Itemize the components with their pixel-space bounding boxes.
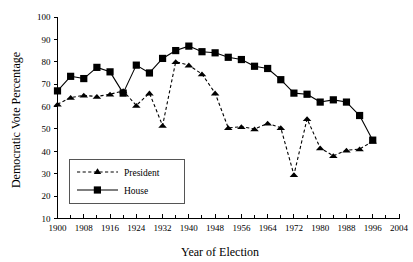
y-tick-label: 50 xyxy=(42,124,52,134)
data-point-marker-triangle xyxy=(290,172,299,177)
data-point-marker-square xyxy=(251,63,258,70)
data-point-marker-triangle xyxy=(132,103,141,108)
y-tick-label: 90 xyxy=(42,35,52,45)
y-tick-label: 60 xyxy=(42,102,52,112)
x-tick-label: 1948 xyxy=(206,223,225,233)
x-tick-label: 1932 xyxy=(154,223,172,233)
data-point-marker-triangle xyxy=(211,91,220,96)
y-tick-label: 80 xyxy=(42,57,52,67)
x-tick-label: 1980 xyxy=(311,223,330,233)
data-point-marker-triangle xyxy=(158,123,167,128)
data-point-marker-square xyxy=(330,96,337,103)
y-axis-title: Democratic Vote Percentage xyxy=(9,52,23,188)
data-point-marker-triangle xyxy=(303,116,312,121)
data-point-marker-square xyxy=(317,98,324,105)
y-tick-label: 40 xyxy=(42,147,52,157)
data-point-marker-triangle xyxy=(106,92,115,97)
data-point-marker-square xyxy=(93,64,100,71)
democratic-vote-percentage-line-chart: Democratic Vote Percentage Year of Elect… xyxy=(0,0,413,262)
data-point-marker-square xyxy=(290,90,297,97)
data-point-marker-square xyxy=(198,48,205,55)
data-point-marker-triangle xyxy=(145,91,154,96)
x-tick-label: 1988 xyxy=(337,223,356,233)
chart-legend: President House xyxy=(70,160,185,204)
x-axis-title-label: Year of Election xyxy=(181,245,259,259)
data-point-marker-square xyxy=(343,98,350,105)
data-point-marker-square xyxy=(212,49,219,56)
data-point-marker-square xyxy=(303,91,310,98)
data-point-marker-triangle xyxy=(185,63,194,68)
data-point-marker-square xyxy=(277,76,284,83)
data-point-marker-triangle xyxy=(276,125,285,130)
data-point-marker-square xyxy=(146,69,153,76)
chart-figure: Democratic Vote Percentage Year of Elect… xyxy=(0,0,413,262)
x-tick-label: 1900 xyxy=(49,223,68,233)
x-axis-title: Year of Election xyxy=(181,245,259,259)
data-point-marker-square xyxy=(67,73,74,80)
x-tick-label: 1996 xyxy=(364,223,383,233)
data-point-marker-square xyxy=(264,65,271,72)
data-point-marker-square xyxy=(120,90,127,97)
data-point-marker-triangle xyxy=(263,121,272,126)
data-series-layer xyxy=(53,43,377,178)
data-point-marker-square xyxy=(54,87,61,94)
x-tick-label: 2004 xyxy=(390,223,409,233)
data-point-marker-triangle xyxy=(316,145,325,150)
series-line-president xyxy=(58,62,373,175)
legend-marker-square-icon xyxy=(94,186,101,193)
x-tick-label: 1916 xyxy=(101,223,120,233)
data-point-marker-triangle xyxy=(237,124,246,129)
data-point-marker-square xyxy=(106,68,113,75)
data-point-marker-square xyxy=(172,47,179,54)
data-point-marker-square xyxy=(80,75,87,82)
data-point-marker-square xyxy=(238,56,245,63)
x-tick-label: 1924 xyxy=(127,223,146,233)
legend-label-house: House xyxy=(124,186,148,196)
y-tick-label: 20 xyxy=(42,191,52,201)
x-tick-label: 1972 xyxy=(285,223,303,233)
y-tick-label: 30 xyxy=(42,169,52,179)
data-point-marker-square xyxy=(356,112,363,119)
data-point-marker-square xyxy=(133,62,140,69)
x-tick-label: 1956 xyxy=(232,223,251,233)
x-tick-label: 1964 xyxy=(259,223,278,233)
x-tick-label: 1940 xyxy=(180,223,199,233)
y-tick-label: 70 xyxy=(42,79,52,89)
data-point-marker-square xyxy=(185,43,192,50)
legend-label-president: President xyxy=(124,168,160,178)
data-point-marker-square xyxy=(225,54,232,61)
x-axis-ticks: 1900190819161924193219401948195619641972… xyxy=(49,214,409,233)
legend-border xyxy=(70,160,185,204)
y-tick-label: 100 xyxy=(37,12,51,22)
y-axis-title-label: Democratic Vote Percentage xyxy=(9,52,23,188)
data-point-marker-triangle xyxy=(171,59,180,64)
data-point-marker-square xyxy=(369,137,376,144)
data-point-marker-triangle xyxy=(53,102,62,107)
y-axis-ticks: 102030405060708090100 xyxy=(37,12,58,224)
data-point-marker-square xyxy=(159,55,166,62)
data-point-marker-triangle xyxy=(93,94,102,99)
x-tick-label: 1908 xyxy=(75,223,94,233)
